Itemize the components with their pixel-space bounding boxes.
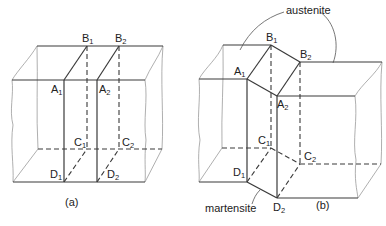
caption-b: (b) — [316, 199, 329, 211]
label-a2: A2 — [99, 83, 111, 97]
b-label-b1: B1 — [266, 31, 278, 45]
austenite-label: austenite — [286, 4, 331, 16]
b-label-c2: C2 — [304, 150, 316, 164]
b-label-a2: A2 — [277, 98, 289, 112]
b-label-a1: A1 — [234, 65, 246, 79]
right-broken-edge — [145, 46, 163, 182]
label-b2: B2 — [115, 32, 127, 46]
b-label-d1: D1 — [233, 166, 245, 180]
figure-b: austenite martensite B1 B2 A1 A2 C1 C2 D… — [198, 4, 382, 215]
figure-a: B1 B2 A1 A2 C1 C2 D1 D2 (a) — [11, 32, 163, 208]
b-right-bottom-diag — [358, 164, 381, 198]
b-edge-d2-c2 — [277, 164, 300, 198]
left-bottom-diag — [13, 149, 38, 182]
austenite-leader-right — [320, 12, 336, 63]
b-label-c1: C1 — [258, 134, 270, 148]
edge-a1-b1 — [64, 46, 87, 80]
label-c1: C1 — [74, 136, 86, 150]
label-d1: D1 — [50, 168, 62, 182]
caption-a: (a) — [65, 196, 78, 208]
b-right-broken-edge — [355, 62, 382, 198]
left-broken-edge — [11, 46, 37, 182]
left-back-edge — [37, 46, 38, 149]
right-bottom-diag — [145, 149, 162, 182]
martensite-label: martensite — [205, 202, 256, 214]
b-label-b2: B2 — [300, 48, 312, 62]
b-edge-c1-c2 — [271, 148, 300, 164]
b-edge-a1-a2 — [247, 79, 277, 96]
edge-a2-b2 — [97, 46, 119, 80]
diagram-canvas: B1 B2 A1 A2 C1 C2 D1 D2 (a) — [0, 0, 386, 226]
b-label-d2: D2 — [273, 201, 285, 215]
b-left-bottom-diag — [199, 148, 222, 182]
b-edge-b1-b2 — [271, 45, 300, 62]
label-d2: D2 — [107, 168, 119, 182]
b-right-back-edge — [381, 62, 382, 164]
edge-d1-c1 — [64, 149, 87, 182]
label-b1: B1 — [82, 32, 94, 46]
right-back-edge — [162, 46, 163, 149]
b-edge-a2-b2 — [277, 62, 300, 96]
b-left-back-edge — [222, 45, 223, 148]
b-left-broken-edge — [198, 45, 223, 182]
b-edge-d1-c1 — [247, 148, 271, 182]
b-edge-d1-d2 — [247, 182, 277, 198]
label-a1: A1 — [51, 83, 63, 97]
label-c2: C2 — [122, 136, 134, 150]
b-edge-a1-b1 — [247, 45, 271, 79]
